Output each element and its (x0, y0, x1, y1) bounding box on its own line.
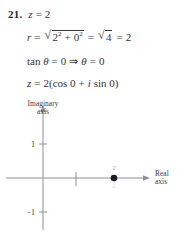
line4-plus: + (79, 77, 85, 89)
plotted-point-label: 2 (112, 164, 115, 171)
line2-result: 2 (126, 31, 132, 43)
implies-symbol: ⇒ (69, 55, 78, 67)
line2-equals-3: = (116, 31, 122, 43)
line3-equals-1: = (52, 55, 58, 67)
graph-svg: 1 −1 Imaginary axis Real axis 2 2 (0, 96, 186, 238)
line2-equals-1: = (34, 31, 40, 43)
cosine-function: cos (53, 77, 68, 89)
solution-line-4: z=2(cos 0+i sin 0) (27, 78, 118, 89)
line2-variable: r (27, 31, 31, 43)
radical-second: 4 (98, 30, 113, 44)
radicand-second: 4 (105, 30, 113, 44)
problem-number: 21. (8, 8, 22, 20)
line1-equals: = (36, 8, 42, 20)
solution-line-2: r=22+02=4=2 (27, 30, 131, 44)
theta-second: θ (81, 55, 86, 67)
plotted-point-label-shadow: 2 (112, 182, 115, 189)
line2-equals-2: = (88, 31, 94, 43)
theta-first: θ (43, 55, 48, 67)
line4-equals: = (34, 77, 40, 89)
radical-first: 22+02 (45, 30, 84, 44)
imaginary-unit: i (88, 77, 91, 89)
tangent-function: tan (27, 55, 40, 67)
sine-function: sin (94, 77, 107, 89)
imaginary-axis-label-line2: axis (37, 107, 49, 116)
close-paren: ) (115, 77, 119, 89)
solution-line-3: tan θ=0⇒θ=0 (27, 56, 104, 67)
line4-variable: z (27, 77, 31, 89)
complex-plane-graph: 1 −1 Imaginary axis Real axis 2 2 (0, 96, 186, 238)
tangent-value: 0 (61, 55, 67, 67)
line3-equals-2: = (90, 55, 96, 67)
cosine-argument: 0 (70, 77, 76, 89)
radicand-b-exponent: 2 (79, 30, 83, 38)
line1-value: 2 (45, 8, 51, 20)
line1-variable: z (28, 8, 32, 20)
y-tick-label-positive-one: 1 (31, 140, 35, 149)
theta-value: 0 (99, 55, 105, 67)
radicand-plus: + (65, 31, 71, 43)
y-tick-label-negative-one: −1 (26, 208, 35, 217)
radicand-first: 22+02 (52, 30, 84, 44)
solution-line-1: 21.z=2 (8, 9, 50, 20)
real-axis-arrow-icon (143, 175, 150, 181)
real-axis-label-line2: axis (155, 177, 167, 186)
radicand-a-exponent: 2 (58, 30, 62, 38)
plotted-point-z (111, 175, 118, 182)
